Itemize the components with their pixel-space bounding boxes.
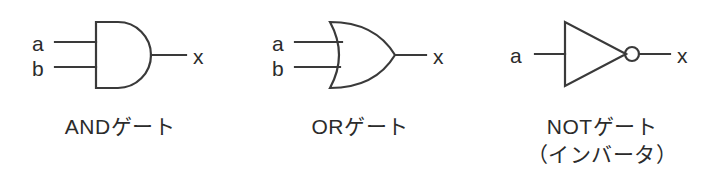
- or-gate-caption: ORゲート: [240, 113, 480, 141]
- or-input-a-label: a: [272, 33, 284, 54]
- or-input-b-label: b: [272, 58, 284, 79]
- and-input-a-label: a: [32, 33, 44, 54]
- and-gate-body: [96, 22, 151, 88]
- and-gate-symbol-area: a b x: [0, 10, 240, 100]
- or-gate-body: [330, 22, 395, 88]
- and-output-x-label: x: [193, 46, 204, 67]
- and-caption-line-1: ANDゲート: [0, 113, 240, 141]
- not-input-a-label: a: [510, 45, 522, 66]
- or-output-x-label: x: [433, 46, 444, 67]
- or-gate-symbol: [240, 10, 480, 100]
- not-caption-line-2: （インバータ）: [480, 141, 724, 169]
- not-caption-line-1: NOTゲート: [480, 113, 724, 141]
- not-gate-figure: a x NOTゲート （インバータ）: [480, 0, 724, 196]
- or-gate-symbol-area: a b x: [240, 10, 480, 100]
- not-output-x-label: x: [677, 45, 688, 66]
- and-gate-caption: ANDゲート: [0, 113, 240, 141]
- not-gate-caption: NOTゲート （インバータ）: [480, 113, 724, 169]
- not-gate-symbol-area: a x: [480, 10, 724, 100]
- logic-gate-diagram: a b x ANDゲート a b x: [0, 0, 724, 196]
- or-caption-line-1: ORゲート: [240, 113, 480, 141]
- and-gate-symbol: [0, 10, 240, 100]
- and-gate-figure: a b x ANDゲート: [0, 0, 240, 196]
- and-input-b-label: b: [32, 58, 44, 79]
- not-gate-triangle: [565, 22, 626, 86]
- or-gate-figure: a b x ORゲート: [240, 0, 480, 196]
